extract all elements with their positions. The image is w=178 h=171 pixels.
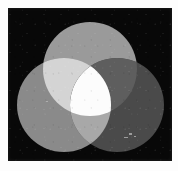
venn-diagram (8, 8, 172, 161)
figure-root (0, 0, 178, 171)
photographic-plate (8, 8, 172, 161)
